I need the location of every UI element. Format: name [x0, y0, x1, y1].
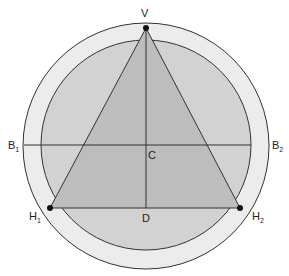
point-h1 — [47, 205, 53, 211]
label-h1: H1 — [29, 210, 41, 224]
geometry-diagram: V C D B1 B2 H1 H2 — [0, 0, 289, 276]
label-v: V — [141, 7, 149, 19]
label-b1: B1 — [8, 139, 19, 153]
point-v — [143, 25, 149, 31]
label-c: C — [148, 149, 156, 161]
label-b2: B2 — [272, 139, 283, 153]
label-d: D — [142, 212, 150, 224]
label-h2: H2 — [252, 210, 264, 224]
point-h2 — [237, 205, 243, 211]
